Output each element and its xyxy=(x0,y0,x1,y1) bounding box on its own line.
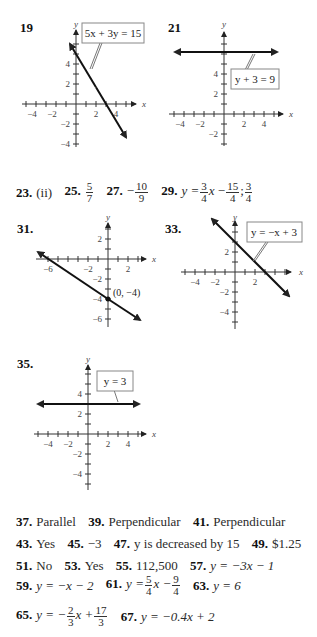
svg-text:y: y xyxy=(232,215,237,222)
answer-65: 65.y = −23x +173 xyxy=(16,605,108,628)
answer-row-51-57: 51.No 53.Yes 55.112,500 57.y = −3x − 1 xyxy=(16,557,283,574)
svg-text:x: x xyxy=(141,99,146,109)
answer-row-43-49: 43.Yes 45.−3 47.y is decreased by 15 49.… xyxy=(16,535,310,552)
answer-37: 37.Parallel xyxy=(16,514,76,530)
svg-text:4: 4 xyxy=(214,69,219,79)
svg-text:4: 4 xyxy=(262,119,267,129)
svg-text:4: 4 xyxy=(66,59,71,69)
svg-text:−4: −4 xyxy=(190,277,200,287)
svg-text:−4: −4 xyxy=(175,119,185,129)
svg-text:−2: −2 xyxy=(210,277,220,287)
answer-row-65-67: 65.y = −23x +173 67.y = −0.4x + 2 xyxy=(16,605,223,628)
graph-21: −4 −2 2 4 2 4 −2 x y y + 3 = 9 xyxy=(155,0,317,160)
answer-29: 29.y =34x −154;34 xyxy=(161,181,253,204)
answer-59: 59.y = −x − 2 xyxy=(16,578,94,594)
svg-text:y: y xyxy=(105,215,110,222)
answer-25: 25.57 xyxy=(64,181,94,204)
answer-47: 47.y is decreased by 15 xyxy=(114,536,240,552)
svg-text:−2: −2 xyxy=(47,109,57,119)
svg-text:y: y xyxy=(85,355,90,364)
svg-text:−2: −2 xyxy=(83,264,93,274)
answer-51: 51.No xyxy=(16,558,52,574)
answer-53: 53.Yes xyxy=(64,558,103,574)
svg-text:−4: −4 xyxy=(92,294,102,304)
svg-text:−4: −4 xyxy=(219,307,229,317)
answer-63: 63.y = 6 xyxy=(193,578,241,594)
svg-text:−6: −6 xyxy=(43,264,53,274)
graph-21-equation-label: y + 3 = 9 xyxy=(235,73,275,85)
graph-35: −4 −2 2 4 2 4 −2 −4 x y y = 3 xyxy=(0,355,170,490)
answer-57: 57.y = −3x − 1 xyxy=(190,558,274,574)
svg-text:−2: −2 xyxy=(92,274,102,284)
svg-text:−2: −2 xyxy=(63,439,73,449)
graph-31: −6 −2 2 2 −2 −4 −6 x y (0, −4) xyxy=(0,215,160,340)
answer-39: 39.Perpendicular xyxy=(88,514,180,530)
svg-text:x: x xyxy=(298,267,303,277)
svg-text:2: 2 xyxy=(94,109,99,119)
svg-text:2: 2 xyxy=(225,247,230,257)
svg-text:−4: −4 xyxy=(43,439,53,449)
svg-text:2: 2 xyxy=(253,277,258,287)
graph-35-equation-label: y = 3 xyxy=(104,375,127,387)
answer-41: 41.Perpendicular xyxy=(193,514,285,530)
graph-19-equation-label: 5x + 3y = 15 xyxy=(85,27,142,39)
answer-45: 45.−3 xyxy=(67,536,101,552)
svg-text:2: 2 xyxy=(66,79,71,89)
svg-text:4: 4 xyxy=(78,389,83,399)
svg-text:−6: −6 xyxy=(92,314,102,324)
svg-text:−2: −2 xyxy=(72,449,82,459)
graph-31-tick-labels: −6 −2 2 2 −2 −4 −6 x y xyxy=(43,215,156,324)
svg-text:−2: −2 xyxy=(60,119,70,129)
answer-61: 61.y =54x −94 xyxy=(106,574,181,597)
svg-text:2: 2 xyxy=(126,264,131,274)
graph-19: −4 −2 2 4 2 4 −2 −4 x y 5x + 3y = 15 xyxy=(0,0,160,160)
svg-text:x: x xyxy=(151,429,156,439)
graph-31-point-label: (0, −4) xyxy=(113,287,140,299)
answer-23: 23.(ii) xyxy=(16,185,52,201)
answer-43: 43.Yes xyxy=(16,536,55,552)
svg-text:2: 2 xyxy=(98,234,103,244)
graph-33: −4 −2 2 2 −2 −4 x y y = −x + 3 xyxy=(155,215,317,345)
answer-67: 67.y = −0.4x + 2 xyxy=(121,609,215,625)
answer-27: 27.−109 xyxy=(106,181,149,204)
svg-text:−4: −4 xyxy=(27,109,37,119)
graph-33-equation-label: y = −x + 3 xyxy=(251,226,298,238)
answer-row-23-29: 23.(ii) 25.57 27.−109 29.y =34x −154;34 xyxy=(16,181,262,204)
svg-text:4: 4 xyxy=(126,439,131,449)
svg-text:y: y xyxy=(73,19,78,29)
svg-text:2: 2 xyxy=(78,409,83,419)
answer-55: 55.112,500 xyxy=(116,558,178,574)
answer-row-37-41: 37.Parallel 39.Perpendicular 41.Perpendi… xyxy=(16,513,294,530)
svg-text:x: x xyxy=(288,109,293,119)
svg-text:−4: −4 xyxy=(72,469,82,479)
svg-text:−4: −4 xyxy=(60,139,70,149)
svg-text:−2: −2 xyxy=(219,287,229,297)
svg-text:−2: −2 xyxy=(195,119,205,129)
svg-text:2: 2 xyxy=(242,119,247,129)
answer-row-59-63: 59.y = −x − 2 61.y =54x −94 63.y = 6 xyxy=(16,574,250,597)
answer-49: 49.$1.25 xyxy=(252,536,302,552)
svg-text:−2: −2 xyxy=(208,129,218,139)
svg-text:2: 2 xyxy=(214,89,219,99)
svg-text:y: y xyxy=(221,19,226,29)
svg-text:2: 2 xyxy=(106,439,111,449)
